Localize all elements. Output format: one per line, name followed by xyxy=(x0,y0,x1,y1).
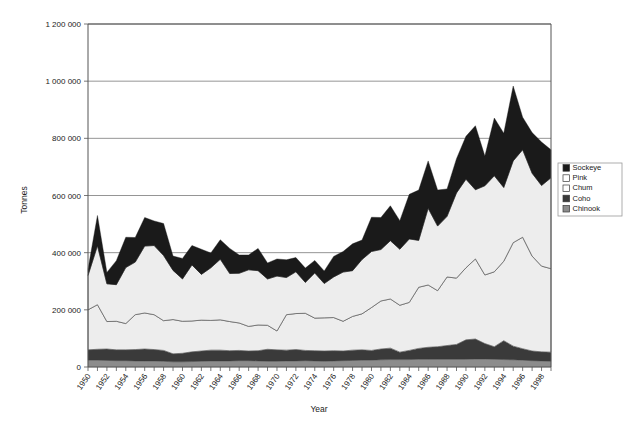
y-tick-label: 600 000 xyxy=(52,192,81,201)
y-tick-label: 0 xyxy=(77,363,82,372)
legend-label-coho: Coho xyxy=(573,194,591,203)
y-tick-label: 800 000 xyxy=(52,134,81,143)
y-tick-label: 1 000 000 xyxy=(45,77,81,86)
legend-swatch-chum xyxy=(563,185,570,192)
chart-figure: 0200 000400 000600 000800 0001 000 0001 … xyxy=(0,0,626,433)
y-tick-label: 200 000 xyxy=(52,306,81,315)
legend-label-sockeye: Sockeye xyxy=(573,163,602,172)
legend: SockeyePinkChumCohoChinook xyxy=(558,163,622,216)
x-axis-title: Year xyxy=(310,404,327,414)
legend-swatch-chinook xyxy=(563,205,570,212)
legend-label-chinook: Chinook xyxy=(573,204,601,213)
y-axis-title: Tonnes xyxy=(19,186,29,213)
legend-swatch-pink xyxy=(563,175,570,182)
legend-swatch-coho xyxy=(563,195,570,202)
y-tick-label: 400 000 xyxy=(52,249,81,258)
stacked-area-chart: 0200 000400 000600 000800 0001 000 0001 … xyxy=(0,0,626,433)
legend-label-pink: Pink xyxy=(573,173,588,182)
legend-label-chum: Chum xyxy=(573,183,593,192)
legend-swatch-sockeye xyxy=(563,165,570,172)
y-tick-label: 1 200 000 xyxy=(45,20,81,29)
